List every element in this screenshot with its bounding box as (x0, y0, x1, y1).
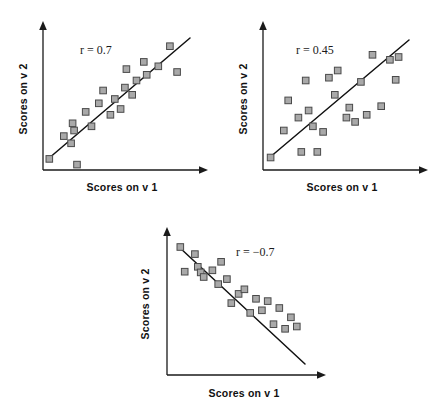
correlation-annotation: r = 0.7 (80, 43, 112, 57)
correlation-annotation: r = −0.7 (236, 245, 275, 259)
x-axis-label: Scores on v 1 (307, 181, 378, 193)
x-axis-label: Scores on v 1 (87, 181, 158, 193)
x-axis (43, 166, 208, 174)
data-points (46, 43, 180, 168)
panel-positive-moderate: r = 0.45 Scores on v 1 Scores on v 2 (228, 10, 439, 198)
correlation-scatterplots-figure: r = 0.7 Scores on v 1 Scores on v 2 (0, 0, 439, 408)
panel-2-plot: r = 0.45 Scores on v 1 Scores on v 2 (228, 10, 439, 198)
y-axis-label: Scores on v 2 (17, 64, 29, 135)
y-axis (163, 227, 171, 375)
correlation-annotation: r = 0.45 (296, 43, 334, 57)
panel-3-plot: r = −0.7 Scores on v 1 Scores on v 2 (118, 212, 330, 402)
panel-positive-strong: r = 0.7 Scores on v 1 Scores on v 2 (8, 10, 220, 198)
y-axis (259, 21, 267, 170)
panel-negative-strong: r = −0.7 Scores on v 1 Scores on v 2 (118, 212, 330, 402)
y-axis-label: Scores on v 2 (237, 64, 249, 135)
y-axis-label: Scores on v 2 (139, 269, 151, 340)
y-axis (39, 21, 47, 170)
x-axis (263, 166, 428, 174)
data-points (267, 52, 402, 161)
x-axis (167, 371, 326, 379)
x-axis-label: Scores on v 1 (209, 387, 280, 399)
panel-1-plot: r = 0.7 Scores on v 1 Scores on v 2 (8, 10, 220, 198)
